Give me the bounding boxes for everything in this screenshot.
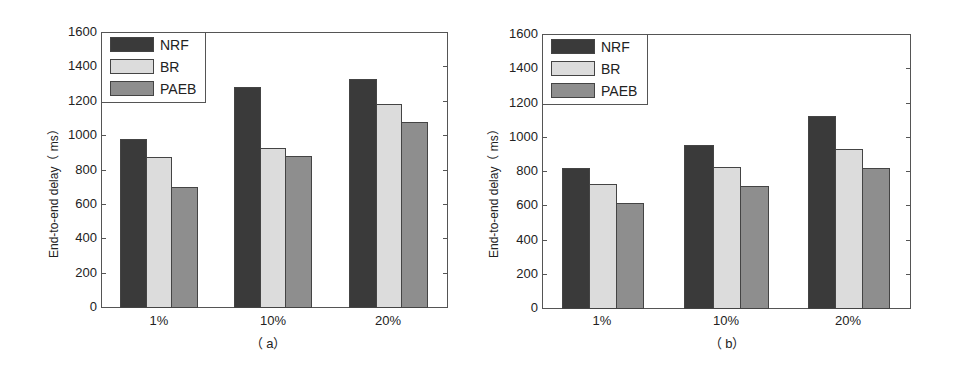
- bar-nrf-20pct: [808, 116, 836, 309]
- bar-br-10pct: [713, 167, 741, 309]
- y-tick-mark: [543, 205, 547, 206]
- y-tick-label: 1600: [498, 27, 538, 41]
- y-tick-mark: [906, 137, 910, 138]
- bar-nrf-1pct: [562, 168, 590, 309]
- y-tick-mark: [543, 137, 547, 138]
- x-tick-label: 10%: [696, 313, 756, 328]
- y-tick-label: 1200: [498, 96, 538, 110]
- legend-swatch-nrf: [551, 39, 595, 54]
- y-tick-mark: [906, 171, 910, 172]
- legend: NRF BR PAEB: [542, 34, 648, 105]
- bar-nrf-10pct: [684, 145, 714, 309]
- legend-label: BR: [601, 61, 620, 77]
- legend-label: PAEB: [601, 83, 637, 99]
- legend-swatch-paeb: [551, 83, 595, 98]
- bar-paeb-10pct: [740, 186, 769, 309]
- y-tick-mark: [906, 240, 910, 241]
- y-tick-label: 1000: [498, 130, 538, 144]
- y-tick-label: 800: [498, 164, 538, 178]
- bar-br-1pct: [589, 184, 617, 309]
- y-tick-mark: [543, 171, 547, 172]
- y-tick-mark: [906, 103, 910, 104]
- x-tick-label: 20%: [818, 313, 878, 328]
- bar-paeb-20pct: [862, 168, 890, 309]
- y-tick-mark: [543, 274, 547, 275]
- y-tick-mark: [906, 205, 910, 206]
- y-tick-label: 400: [498, 233, 538, 247]
- chart-panel-b: End-to-end delay（ ms） 020040060080010001…: [0, 0, 953, 366]
- subfigure-caption: （ b）: [697, 333, 757, 352]
- y-tick-mark: [906, 274, 910, 275]
- legend-label: NRF: [601, 39, 630, 55]
- x-tick-label: 1%: [572, 313, 632, 328]
- bar-br-20pct: [835, 149, 863, 309]
- bar-paeb-1pct: [616, 203, 644, 309]
- legend-swatch-br: [551, 61, 595, 76]
- y-tick-mark: [906, 68, 910, 69]
- y-tick-label: 600: [498, 198, 538, 212]
- y-tick-label: 0: [498, 301, 538, 315]
- y-tick-label: 1400: [498, 61, 538, 75]
- y-tick-mark: [543, 240, 547, 241]
- y-tick-label: 200: [498, 267, 538, 281]
